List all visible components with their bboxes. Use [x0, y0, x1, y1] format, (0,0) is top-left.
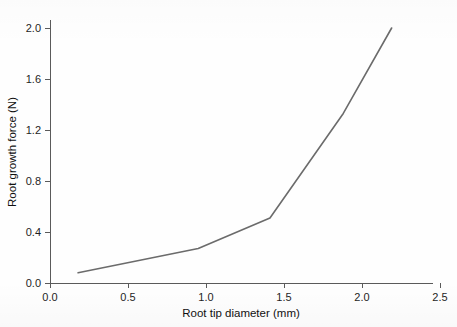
- figure-root-growth-force: 0.00.40.81.21.62.02.4 0.00.51.01.52.02.5…: [0, 0, 457, 327]
- y-tick-label: 1.2: [26, 124, 41, 136]
- y-tick-label: 0.0: [26, 277, 41, 289]
- data-series-line: [78, 28, 392, 273]
- x-tick-label: 0.0: [42, 291, 57, 303]
- y-tick-label: 0.4: [26, 226, 41, 238]
- y-tick-label: 2.0: [26, 22, 41, 34]
- x-axis-ticks: 0.00.51.01.52.02.5: [42, 283, 447, 303]
- y-axis-title: Root growth force (N): [6, 97, 18, 207]
- x-tick-label: 1.0: [198, 291, 213, 303]
- y-tick-label: 1.6: [26, 73, 41, 85]
- x-tick-label: 2.5: [432, 291, 447, 303]
- x-tick-label: 2.0: [354, 291, 369, 303]
- x-tick-label: 0.5: [120, 291, 135, 303]
- y-tick-label: 0.8: [26, 175, 41, 187]
- x-tick-label: 1.5: [276, 291, 291, 303]
- chart-canvas: 0.00.40.81.21.62.02.4 0.00.51.01.52.02.5…: [0, 0, 457, 327]
- x-axis-title: Root tip diameter (mm): [182, 307, 300, 319]
- y-axis-ticks: 0.00.40.81.21.62.02.4: [26, 0, 50, 289]
